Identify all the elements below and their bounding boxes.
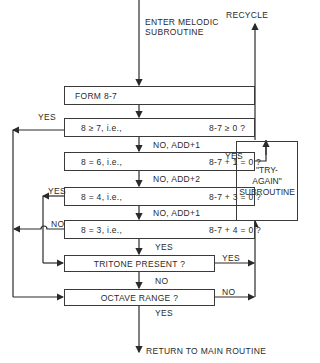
tritone-check-box: TRITONE PRESENT ? — [64, 255, 215, 272]
condition-box-4: 8 = 3, i.e., 8-7 + 4 = 0 ? — [64, 220, 255, 239]
yes-label-4: YES — [155, 242, 173, 252]
yes-label-3: YES — [48, 186, 66, 196]
octave-range-box: OCTAVE RANGE ? — [64, 289, 215, 306]
condition-box-1: 8 ≥ 7, i.e., 8-7 ≥ 0 ? — [64, 118, 255, 137]
no-label-4: NO — [51, 219, 64, 229]
octave-no-label: NO — [222, 287, 235, 297]
yes-label-1: YES — [38, 112, 56, 122]
tritone-no-label: NO — [155, 276, 168, 286]
recycle-label: RECYCLE — [226, 10, 268, 20]
octave-yes-label: YES — [155, 308, 173, 318]
no-add-label-1: NO, ADD+1 — [153, 140, 200, 150]
condition-box-3: 8 = 4, i.e., 8-7 + 3 = 0 ? — [64, 187, 255, 206]
form-step-box: FORM 8-7 — [64, 86, 255, 105]
no-add-label-2: NO, ADD+2 — [153, 174, 200, 184]
tritone-yes-label: YES — [222, 253, 240, 263]
no-add-label-3: NO, ADD+1 — [153, 208, 200, 218]
try-again-subroutine-box: "TRY- AGAIN" SUBROUTINE — [236, 141, 298, 221]
entry-label: ENTER MELODIC SUBROUTINE — [145, 17, 219, 37]
exit-label: RETURN TO MAIN ROUTINE — [146, 346, 266, 356]
